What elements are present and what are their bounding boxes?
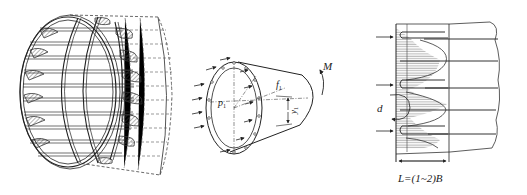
panel-section-diagram: d L=(1~2)B [340,0,527,195]
moment-label: M [322,60,333,72]
section-drawing: d L=(1~2)B [340,0,527,195]
pressure-label: p1 [217,97,226,109]
cage-drawing [0,0,180,195]
diameter-label: d [377,102,383,114]
panel-cylinder-diagram: M p1 f1 y1 [190,0,340,195]
length-formula-label: L=(1~2)B [397,172,443,185]
panel-cage-diagram [0,0,180,195]
offset-label: y1 [288,107,299,115]
force-label: f1 [276,79,282,91]
cylinder-drawing: M p1 f1 y1 [190,0,340,195]
